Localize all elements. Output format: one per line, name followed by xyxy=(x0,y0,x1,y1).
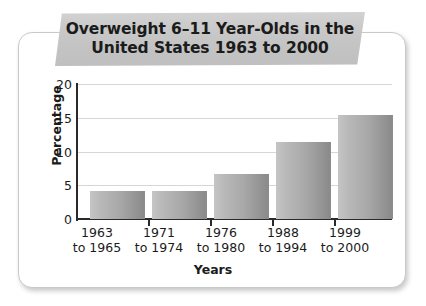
x-category-2-line-2: to 1974 xyxy=(124,240,194,255)
x-category-4-line-2: to 1994 xyxy=(248,240,318,255)
bar-1976-1980[interactable] xyxy=(214,174,269,219)
x-category-3-line-2: to 1980 xyxy=(186,240,256,255)
x-category-label-5: 1999 to 2000 xyxy=(310,225,380,255)
x-category-1-line-2: to 1965 xyxy=(62,240,132,255)
chart-title-line-2: United States 1963 to 2000 xyxy=(66,39,355,58)
bar-1988-1994[interactable] xyxy=(276,142,331,219)
x-category-label-4: 1988 to 1994 xyxy=(248,225,318,255)
x-category-2-line-1: 1971 xyxy=(143,225,175,240)
bar-series xyxy=(78,84,392,219)
x-category-5-line-1: 1999 xyxy=(329,225,361,240)
chart-title-banner: Overweight 6–11 Year-Olds in the United … xyxy=(55,12,365,66)
x-axis-title: Years xyxy=(0,262,426,277)
x-category-3-line-1: 1976 xyxy=(205,225,237,240)
bar-1963-1965[interactable] xyxy=(90,191,145,219)
y-tick-label-10: 10 xyxy=(44,145,72,160)
bar-1999-2000[interactable] xyxy=(338,115,393,219)
x-category-label-3: 1976 to 1980 xyxy=(186,225,256,255)
chart-title-text: Overweight 6–11 Year-Olds in the United … xyxy=(66,20,355,58)
x-category-1-line-1: 1963 xyxy=(81,225,113,240)
chart-title-line-1: Overweight 6–11 Year-Olds in the xyxy=(66,20,355,39)
bar-1971-1974[interactable] xyxy=(152,191,207,219)
x-category-5-line-2: to 2000 xyxy=(310,240,380,255)
y-tick-label-20: 20 xyxy=(44,77,72,92)
y-tick-label-5: 5 xyxy=(44,178,72,193)
x-category-label-2: 1971 to 1974 xyxy=(124,225,194,255)
plot-area xyxy=(78,84,392,219)
y-tick-label-15: 15 xyxy=(44,111,72,126)
x-category-label-1: 1963 to 1965 xyxy=(62,225,132,255)
x-category-4-line-1: 1988 xyxy=(267,225,299,240)
